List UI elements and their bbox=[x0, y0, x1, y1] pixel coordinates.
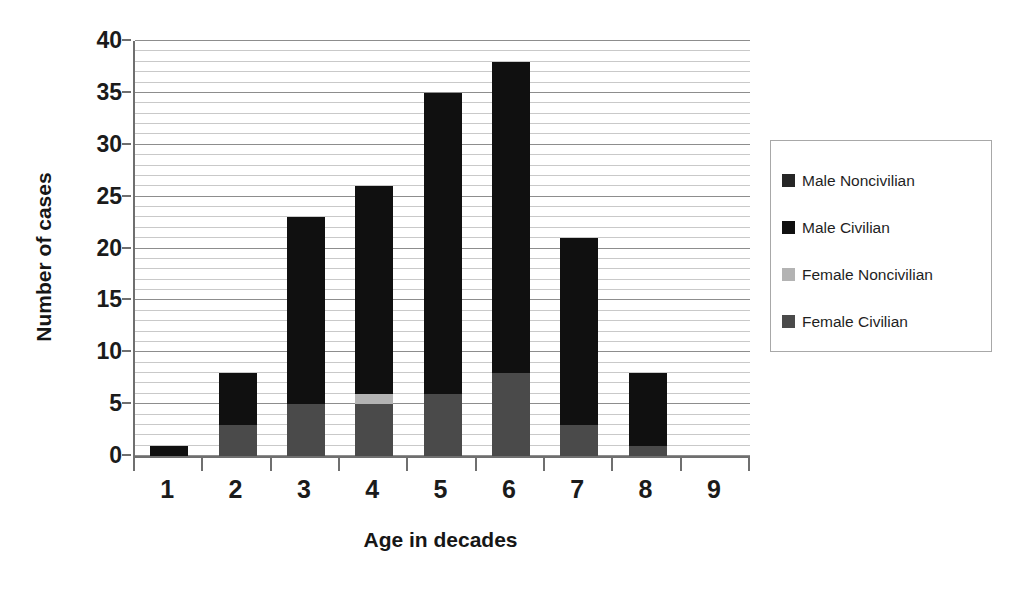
y-axis-tick-label: 30 bbox=[62, 133, 122, 156]
bar-segment[interactable] bbox=[560, 425, 598, 456]
x-axis-tick-label: 5 bbox=[406, 477, 476, 502]
bar-group[interactable] bbox=[287, 217, 325, 456]
legend-item[interactable]: Male Noncivilian bbox=[771, 157, 991, 204]
y-axis-tick bbox=[122, 298, 131, 300]
x-axis-tick bbox=[133, 458, 135, 471]
bar-segment[interactable] bbox=[492, 373, 530, 456]
x-axis-tick-label: 4 bbox=[337, 477, 407, 502]
bar-group[interactable] bbox=[629, 373, 667, 456]
x-axis-title: Age in decades bbox=[133, 528, 748, 552]
bar-segment[interactable] bbox=[355, 404, 393, 456]
y-axis-title: Number of cases bbox=[32, 127, 56, 387]
bar-series-container bbox=[135, 41, 750, 456]
y-axis-tick-label: 35 bbox=[62, 81, 122, 104]
bar-group[interactable] bbox=[219, 373, 257, 456]
y-axis-tick bbox=[122, 402, 131, 404]
bar-segment[interactable] bbox=[492, 62, 530, 373]
legend-swatch-icon bbox=[782, 174, 795, 187]
x-axis-ticks bbox=[133, 458, 748, 472]
y-axis-tick-label: 15 bbox=[62, 288, 122, 311]
bar-segment[interactable] bbox=[424, 93, 462, 394]
y-axis-tick bbox=[122, 350, 131, 352]
y-axis-tick-label: 40 bbox=[62, 29, 122, 52]
legend-item-label: Male Noncivilian bbox=[802, 172, 915, 190]
y-axis-tick bbox=[122, 39, 131, 41]
legend-item[interactable]: Female Civilian bbox=[771, 298, 991, 345]
bar-group[interactable] bbox=[355, 186, 393, 456]
y-axis-tick-label: 5 bbox=[62, 392, 122, 415]
bar-segment[interactable] bbox=[424, 394, 462, 456]
legend-item[interactable]: Male Civilian bbox=[771, 204, 991, 251]
x-axis-tick bbox=[611, 458, 613, 471]
legend-item[interactable]: Female Noncivilian bbox=[771, 251, 991, 298]
y-axis-tick-labels: 0510152025303540 bbox=[58, 41, 122, 456]
legend-item-label: Female Noncivilian bbox=[802, 266, 933, 284]
legend-swatch-icon bbox=[782, 268, 795, 281]
bar-segment[interactable] bbox=[219, 425, 257, 456]
y-axis-tick-label: 10 bbox=[62, 340, 122, 363]
y-axis-tick-label: 20 bbox=[62, 237, 122, 260]
bar-segment[interactable] bbox=[629, 446, 667, 456]
x-axis-tick-label: 9 bbox=[679, 477, 749, 502]
bar-segment[interactable] bbox=[629, 373, 667, 446]
x-axis-tick-label: 1 bbox=[132, 477, 202, 502]
y-axis-tick bbox=[122, 247, 131, 249]
x-axis-tick bbox=[543, 458, 545, 471]
plot-area bbox=[133, 41, 750, 458]
x-axis-tick bbox=[338, 458, 340, 471]
bar-segment[interactable] bbox=[355, 394, 393, 404]
bar-segment[interactable] bbox=[219, 373, 257, 425]
y-axis-tick-label: 25 bbox=[62, 185, 122, 208]
y-axis-tick bbox=[122, 195, 131, 197]
x-axis-tick bbox=[201, 458, 203, 471]
bar-group[interactable] bbox=[560, 238, 598, 456]
x-axis-tick-label: 8 bbox=[611, 477, 681, 502]
legend-swatch-icon bbox=[782, 221, 795, 234]
chart-legend: Male NoncivilianMale CivilianFemale Nonc… bbox=[770, 140, 992, 352]
x-axis-tick-label: 2 bbox=[201, 477, 271, 502]
bar-segment[interactable] bbox=[287, 217, 325, 404]
legend-swatch-icon bbox=[782, 315, 795, 328]
x-axis-tick bbox=[406, 458, 408, 471]
y-axis-tick-label: 0 bbox=[62, 444, 122, 467]
x-axis-tick-label: 6 bbox=[474, 477, 544, 502]
legend-item-label: Female Civilian bbox=[802, 313, 908, 331]
bar-segment[interactable] bbox=[560, 238, 598, 425]
bar-chart: Number of cases 0510152025303540 1234567… bbox=[0, 0, 1018, 602]
x-axis-tick-label: 7 bbox=[542, 477, 612, 502]
y-axis-tick bbox=[122, 454, 131, 456]
x-axis-tick-label: 3 bbox=[269, 477, 339, 502]
bar-segment[interactable] bbox=[150, 446, 188, 456]
y-axis-tick bbox=[122, 143, 131, 145]
legend-item-label: Male Civilian bbox=[802, 219, 890, 237]
bar-group[interactable] bbox=[492, 62, 530, 456]
x-axis-tick bbox=[270, 458, 272, 471]
y-axis-tick bbox=[122, 91, 131, 93]
bar-segment[interactable] bbox=[287, 404, 325, 456]
x-axis-tick bbox=[475, 458, 477, 471]
x-axis-tick-labels: 123456789 bbox=[133, 477, 748, 517]
x-axis-tick bbox=[680, 458, 682, 471]
bar-group[interactable] bbox=[150, 446, 188, 456]
bar-group[interactable] bbox=[424, 93, 462, 456]
x-axis-tick bbox=[748, 458, 750, 471]
bar-segment[interactable] bbox=[355, 186, 393, 394]
